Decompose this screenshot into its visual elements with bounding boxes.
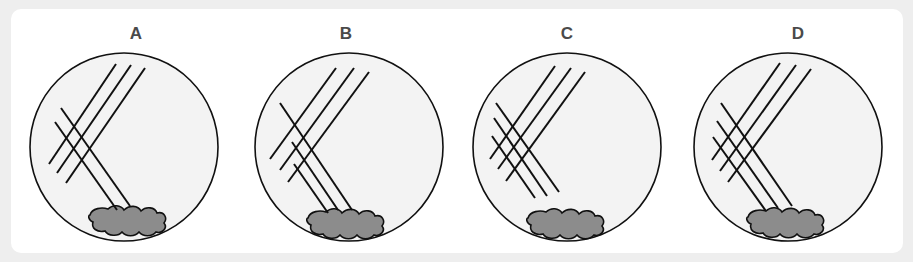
petri-dish-d <box>694 53 882 241</box>
inoculum-b <box>307 209 384 239</box>
streak-plate-diagrams <box>0 0 913 262</box>
inoculum-d <box>747 208 824 238</box>
inoculum-a <box>89 206 166 236</box>
petri-dish-b <box>255 53 443 241</box>
inoculum-c <box>527 209 604 239</box>
petri-dish-c <box>473 53 661 241</box>
petri-dish-a <box>30 53 218 241</box>
